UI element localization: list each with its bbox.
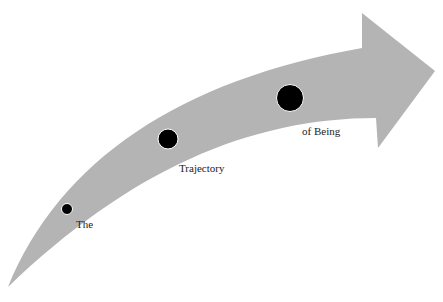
label-of-being: of Being <box>302 126 340 137</box>
dot-small <box>62 204 73 215</box>
trajectory-diagram: The Trajectory of Being <box>0 0 443 302</box>
arrow-shape <box>8 13 435 287</box>
dot-large <box>277 85 304 112</box>
label-the: The <box>76 219 93 230</box>
dot-medium <box>158 129 178 149</box>
label-trajectory: Trajectory <box>179 163 224 174</box>
curved-arrow <box>0 0 443 302</box>
